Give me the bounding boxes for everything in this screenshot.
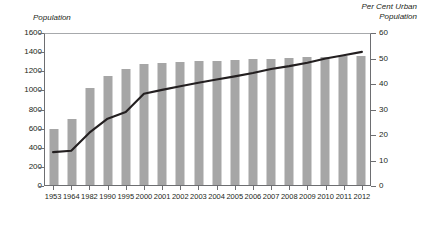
x-axis-tickmark [217,186,218,190]
x-axis-tickmark [126,186,127,190]
y-axis-left-tick-label: 1200 [8,66,42,75]
x-axis-tick-label: 2007 [263,192,280,201]
y-axis-left-tick-label: 600 [8,124,42,133]
x-axis-tick-label: 1990 [99,192,116,201]
y-axis-right-tickmark [371,33,376,34]
x-axis-tickmark [344,186,345,190]
x-axis-tickmark [162,186,163,190]
y-axis-left-tickmark [39,71,44,72]
x-axis-tickmark [53,186,54,190]
x-axis-tickmark [271,186,272,190]
x-axis-tick-label: 2010 [317,192,334,201]
y-axis-right-tick-label: 60 [379,28,409,37]
x-axis-tick-label: 2005 [226,192,243,201]
y-axis-right-tickmark [371,59,376,60]
x-axis-tick-label: 2011 [336,192,352,201]
y-axis-left-tickmark [39,129,44,130]
urban-percentage-line [53,52,362,152]
y-axis-right-tickmark [371,135,376,136]
x-axis-tick-label: 2008 [281,192,298,201]
y-axis-left-tickmark [39,186,44,187]
y-axis-right-tick-label: 30 [379,105,409,114]
x-axis-tickmark [253,186,254,190]
y-axis-left-tick-label: 1400 [8,47,42,56]
y-axis-right-tickmark [371,161,376,162]
y-axis-left-tick-label: 200 [8,162,42,171]
x-axis-tick-label: 2009 [299,192,316,201]
x-axis-tick-label: 2000 [136,192,153,201]
x-axis-tickmark [144,186,145,190]
y-axis-right-tick-label: 40 [379,79,409,88]
y-axis-left-tickmark [39,52,44,53]
y-axis-left-tickmark [39,167,44,168]
x-axis-tick-label: 2012 [354,192,371,201]
x-axis-tick-label: 2001 [154,192,171,201]
y-axis-left-tick-label: 1000 [8,85,42,94]
y-axis-left-tick-label: 1600 [8,28,42,37]
x-axis-tickmark [198,186,199,190]
x-axis-tickmark [89,186,90,190]
x-axis-tick-label: 2002 [172,192,189,201]
y-axis-right-tickmark [371,186,376,187]
x-axis-tickmark [235,186,236,190]
x-axis-tickmark [326,186,327,190]
x-axis-tick-label: 1964 [63,192,80,201]
x-axis-tickmark [362,186,363,190]
y-axis-right-tickmark [371,84,376,85]
x-axis-tickmark [71,186,72,190]
x-axis-tick-label: 1995 [117,192,134,201]
x-axis-tickmark [108,186,109,190]
y-axis-right-tickmark [371,110,376,111]
y-axis-right-tick-label: 50 [379,54,409,63]
y-axis-left-tick-label: 400 [8,143,42,152]
x-axis-tickmark [180,186,181,190]
x-axis-tick-label: 1953 [45,192,62,201]
y-axis-left-tick-label: 800 [8,105,42,114]
y-axis-left-tick-label: 0 [8,181,42,190]
x-axis-tick-label: 1982 [81,192,98,201]
y-axis-left-tickmark [39,33,44,34]
y-axis-left-tickmark [39,90,44,91]
y-axis-left-tickmark [39,110,44,111]
x-axis-tick-label: 2006 [245,192,262,201]
x-axis-tickmark [289,186,290,190]
y-axis-left-tickmark [39,148,44,149]
x-axis-tick-label: 2004 [208,192,225,201]
x-axis-tick-label: 2003 [190,192,207,201]
y-axis-right-tick-label: 10 [379,156,409,165]
y-axis-right-tick-label: 0 [379,181,409,190]
x-axis-tickmark [307,186,308,190]
y-axis-right-tick-label: 20 [379,130,409,139]
chart-container: Population Per Cent Urban Population Chi… [0,0,421,227]
